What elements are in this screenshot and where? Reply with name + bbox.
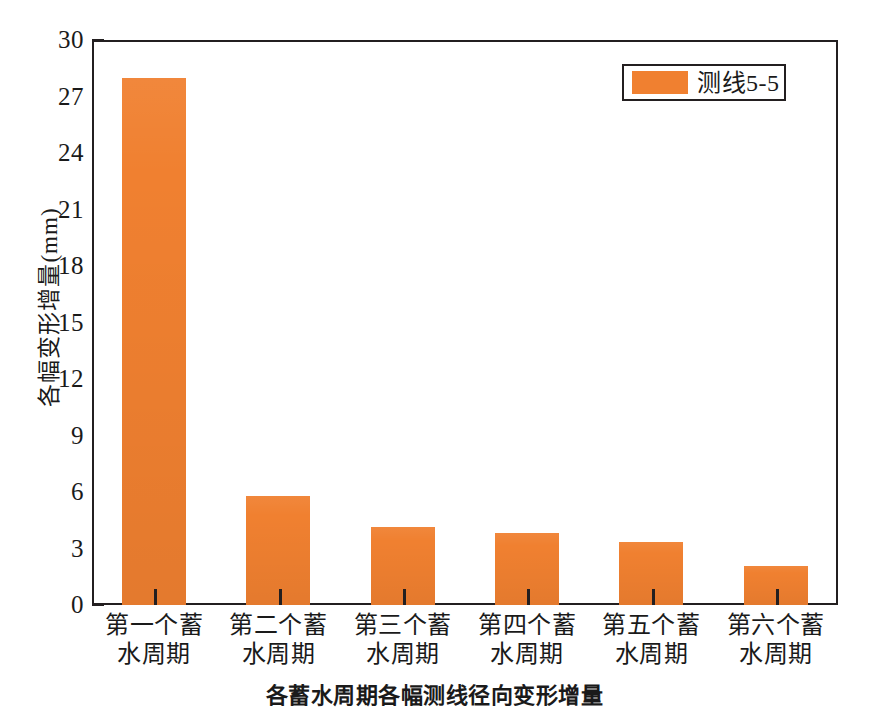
x-tick bbox=[403, 589, 406, 605]
bar-slot bbox=[465, 40, 589, 605]
y-tick-label: 12 bbox=[40, 366, 84, 391]
x-axis-label-line: 第五个蓄 bbox=[589, 611, 713, 640]
x-axis-label-line: 第二个蓄 bbox=[216, 611, 340, 640]
bar-slot bbox=[92, 40, 216, 605]
bar bbox=[122, 78, 186, 605]
bar-slot bbox=[216, 40, 340, 605]
y-tick-label: 24 bbox=[40, 140, 84, 165]
x-axis-label: 第二个蓄水周期 bbox=[216, 611, 340, 670]
x-tick bbox=[527, 589, 530, 605]
y-tick-label: 18 bbox=[40, 253, 84, 278]
y-tick-label: 15 bbox=[40, 310, 84, 335]
bar-slot bbox=[341, 40, 465, 605]
x-axis-label: 第六个蓄水周期 bbox=[714, 611, 838, 670]
x-axis-label-line: 第四个蓄 bbox=[465, 611, 589, 640]
x-axis-label: 第五个蓄水周期 bbox=[589, 611, 713, 670]
bars-layer bbox=[92, 40, 838, 605]
x-tick bbox=[776, 589, 779, 605]
x-axis-label-line: 第六个蓄 bbox=[714, 611, 838, 640]
x-axis-label: 第四个蓄水周期 bbox=[465, 611, 589, 670]
x-tick bbox=[154, 589, 157, 605]
y-tick-label: 6 bbox=[40, 479, 84, 504]
x-axis-label-line: 水周期 bbox=[465, 640, 589, 669]
figure-caption: 各蓄水周期各幅测线径向变形增量 bbox=[0, 684, 869, 708]
bar-slot bbox=[714, 40, 838, 605]
y-tick-label: 9 bbox=[40, 423, 84, 448]
x-tick bbox=[279, 589, 282, 605]
x-axis-label-line: 水周期 bbox=[216, 640, 340, 669]
x-axis-label-line: 水周期 bbox=[92, 640, 216, 669]
x-axis-label: 第一个蓄水周期 bbox=[92, 611, 216, 670]
x-axis-label-line: 第一个蓄 bbox=[92, 611, 216, 640]
legend: 测线5-5 bbox=[622, 64, 786, 101]
y-tick-label: 3 bbox=[40, 536, 84, 561]
x-axis-label-line: 水周期 bbox=[589, 640, 713, 669]
x-axis-label-line: 水周期 bbox=[714, 640, 838, 669]
legend-swatch-celiang-5-5 bbox=[632, 71, 688, 94]
bar-slot bbox=[589, 40, 713, 605]
x-tick bbox=[652, 589, 655, 605]
x-axis-labels: 第一个蓄水周期第二个蓄水周期第三个蓄水周期第四个蓄水周期第五个蓄水周期第六个蓄水… bbox=[92, 611, 838, 685]
x-axis-label: 第三个蓄水周期 bbox=[341, 611, 465, 670]
y-tick-label: 27 bbox=[40, 84, 84, 109]
x-axis-label-line: 第三个蓄 bbox=[341, 611, 465, 640]
y-tick-label: 0 bbox=[40, 592, 84, 617]
legend-label-celiang-5-5: 测线5-5 bbox=[697, 71, 780, 95]
y-tick-label: 30 bbox=[40, 27, 84, 52]
x-axis-label-line: 水周期 bbox=[341, 640, 465, 669]
y-tick-label: 21 bbox=[40, 197, 84, 222]
